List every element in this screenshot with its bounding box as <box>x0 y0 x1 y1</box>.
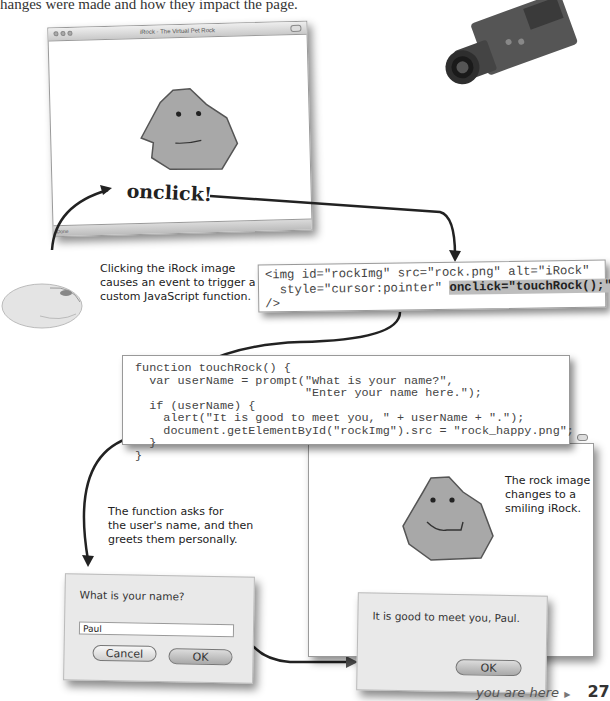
ok-button[interactable]: OK <box>168 648 232 665</box>
toolbar-toggle-button[interactable] <box>577 434 588 441</box>
annotation-click: Clicking the iRock image causes an event… <box>100 262 255 304</box>
annotation-rock-change: The rock image changes to a smiling iRoc… <box>505 474 590 516</box>
touchrock-function-code: function touchRock() { var userName = pr… <box>122 355 570 445</box>
alert-ok-button[interactable]: OK <box>455 659 521 676</box>
name-input[interactable]: Paul <box>79 622 234 638</box>
page-footer: you are here ▶ 27 <box>476 682 610 701</box>
triangle-right-icon: ▶ <box>564 690 570 699</box>
cancel-button[interactable]: Cancel <box>92 645 156 662</box>
alert-dialog: It is good to meet you, Paul. OK <box>356 592 548 693</box>
annotation-function: The function asks for the user's name, a… <box>108 505 253 547</box>
you-are-here-label: you are here <box>476 685 559 700</box>
happy-rock-image[interactable] <box>401 474 497 566</box>
onclick-attribute-highlight: onclick="touchRock();" <box>449 278 610 294</box>
page-number: 27 <box>587 682 609 701</box>
prompt-label: What is your name? <box>79 589 184 603</box>
img-tag-code: <img id="rockImg" src="rock.png" alt="iR… <box>258 260 607 313</box>
prompt-dialog: What is your name? Paul Cancel OK <box>63 573 255 683</box>
alert-message: It is good to meet you, Paul. <box>372 610 520 625</box>
